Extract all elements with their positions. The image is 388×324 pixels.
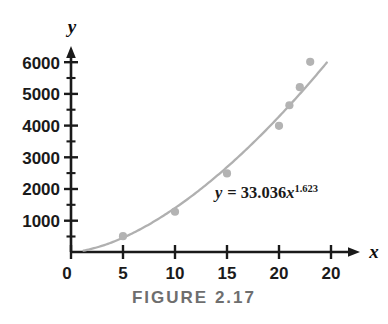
x-tick-label-15: 15 [218,264,237,283]
x-axis-tick-labels: 0 5 10 15 20 20 [62,264,340,283]
data-point [306,58,314,66]
x-tick-label-0: 0 [62,264,71,283]
y-tick-label-5000: 5000 [22,85,60,104]
x-axis [71,247,360,257]
equation-lhs: y [213,183,223,202]
equation-variable: x [285,183,294,202]
y-tick-label-3000: 3000 [22,149,60,168]
x-tick-label-25: 20 [322,264,341,283]
data-point [275,122,283,130]
x-tick-label-20: 20 [270,264,289,283]
data-point [223,169,231,177]
data-point [119,232,127,240]
equation-exponent: 1.623 [294,183,318,194]
x-axis-arrowhead [348,247,360,257]
data-point [296,83,304,91]
fit-equation-annotation: y= 33.036x1.623 [213,183,318,202]
power-fit-curve [83,63,326,251]
equation-body: = 33.036 [227,183,286,202]
y-tick-label-1000: 1000 [22,212,60,231]
y-axis-label: y [66,16,77,37]
data-point [171,208,179,216]
chart-plot-area: 6000 5000 4000 3000 2000 1000 y 0 5 10 [0,0,388,324]
data-point [285,101,293,109]
x-axis-label: x [368,241,379,262]
y-axis-arrowhead [66,46,76,58]
y-tick-label-2000: 2000 [22,180,60,199]
x-tick-label-5: 5 [118,264,127,283]
x-tick-label-10: 10 [166,264,185,283]
figure-container: 6000 5000 4000 3000 2000 1000 y 0 5 10 [0,0,388,324]
scatter-data-points [119,58,314,241]
y-tick-label-6000: 6000 [22,54,60,73]
figure-caption: FIGURE 2.17 [0,288,388,308]
y-tick-label-4000: 4000 [22,117,60,136]
y-axis-tick-labels: 6000 5000 4000 3000 2000 1000 [22,54,60,232]
